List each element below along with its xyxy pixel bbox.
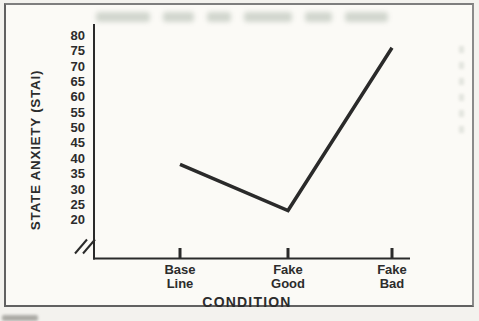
x-category-label-fake-good: Fake Good bbox=[246, 263, 330, 291]
y-tick-label-45: 45 bbox=[50, 135, 85, 150]
scanned-page: STATE ANXIETY (STAI) CONDITION 807570656… bbox=[0, 0, 479, 321]
y-tick-label-35: 35 bbox=[50, 166, 85, 181]
chart-area: STATE ANXIETY (STAI) CONDITION 807570656… bbox=[0, 0, 479, 321]
y-tick-label-50: 50 bbox=[50, 120, 85, 135]
y-tick-label-80: 80 bbox=[50, 28, 85, 43]
y-tick-label-65: 65 bbox=[50, 74, 85, 89]
y-tick-label-55: 55 bbox=[50, 105, 85, 120]
y-axis-title: STATE ANXIETY (STAI) bbox=[28, 70, 43, 230]
y-tick-label-40: 40 bbox=[50, 151, 85, 166]
x-category-label-base-line: Base Line bbox=[138, 263, 222, 291]
y-tick-label-20: 20 bbox=[50, 212, 85, 227]
x-axis-title: CONDITION bbox=[202, 294, 291, 310]
x-category-label-fake-bad: Fake Bad bbox=[350, 263, 434, 291]
y-tick-label-75: 75 bbox=[50, 43, 85, 58]
data-series-line bbox=[180, 48, 392, 211]
y-tick-label-70: 70 bbox=[50, 59, 85, 74]
y-tick-label-30: 30 bbox=[50, 182, 85, 197]
y-tick-label-60: 60 bbox=[50, 89, 85, 104]
y-tick-label-25: 25 bbox=[50, 197, 85, 212]
caption-remnant-artifact bbox=[2, 315, 38, 321]
